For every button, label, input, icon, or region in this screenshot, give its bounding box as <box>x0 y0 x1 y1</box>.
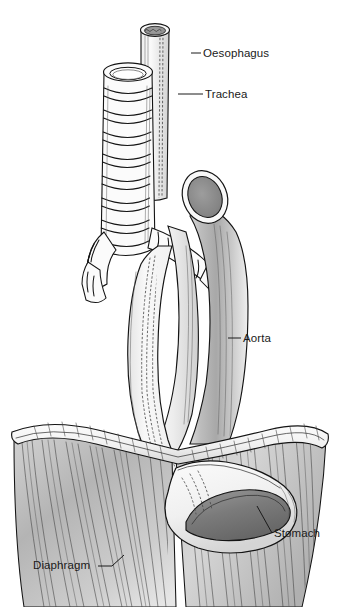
label-text-aorta: Aorta <box>243 332 271 344</box>
anatomy-illustration: Oesophagus Trachea Aorta Stomach Diaphra… <box>0 0 338 607</box>
anatomy-figure: Oesophagus Trachea Aorta Stomach Diaphra… <box>0 0 338 607</box>
label-oesophagus: Oesophagus <box>191 47 269 59</box>
label-text-oesophagus: Oesophagus <box>203 47 269 59</box>
label-text-trachea: Trachea <box>205 88 248 100</box>
trachea-top-inner-ring <box>113 70 143 80</box>
label-text-diaphragm: Diaphragm <box>33 559 90 571</box>
trachea-structure <box>101 63 155 256</box>
label-text-stomach: Stomach <box>274 527 320 539</box>
